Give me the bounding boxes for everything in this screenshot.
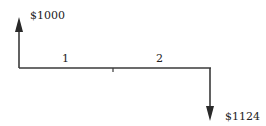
outflow-label: $1124: [225, 110, 260, 123]
inflow-arrow-icon: [15, 17, 23, 68]
cash-flow-diagram: $1000 1 2 $1124: [0, 0, 266, 126]
period-label-1: 1: [62, 52, 69, 65]
period-label-2: 2: [156, 52, 163, 65]
outflow-arrow-icon: [206, 68, 214, 121]
inflow-label: $1000: [30, 9, 65, 22]
